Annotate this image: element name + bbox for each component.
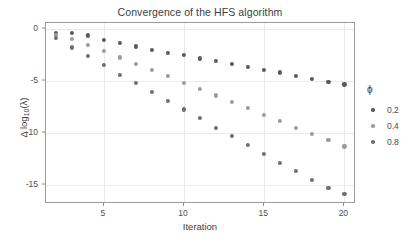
data-point xyxy=(262,112,266,116)
data-point xyxy=(86,43,90,47)
data-point xyxy=(150,68,154,72)
data-point xyxy=(102,63,106,67)
x-tick-label: 5 xyxy=(100,208,105,218)
data-point xyxy=(86,54,90,58)
legend-item[interactable]: 0.4 xyxy=(366,118,420,134)
legend: ϕ 0.20.40.8 xyxy=(366,84,420,150)
x-tick-mark xyxy=(343,203,344,206)
data-point xyxy=(310,77,314,81)
legend-label: 0.8 xyxy=(387,137,399,147)
data-point xyxy=(278,70,282,74)
data-point xyxy=(198,86,202,90)
y-axis-log: log xyxy=(18,116,29,129)
x-tick-label: 10 xyxy=(178,208,187,218)
y-tick-label: 0 xyxy=(0,23,38,33)
y-axis-arg: (λ) xyxy=(18,97,29,108)
chart-title: Convergence of the HFS algorithm xyxy=(45,6,355,18)
data-point xyxy=(118,72,122,76)
data-point xyxy=(70,31,74,35)
data-point xyxy=(294,125,298,129)
data-point xyxy=(246,106,250,110)
x-tick-mark xyxy=(103,203,104,206)
data-point xyxy=(198,56,202,60)
legend-items: 0.20.40.8 xyxy=(366,102,420,150)
grid-line-vertical xyxy=(184,23,185,202)
data-point xyxy=(262,152,266,156)
y-axis-delta: Δ xyxy=(18,132,29,138)
data-point xyxy=(134,81,138,85)
data-point xyxy=(166,51,170,55)
data-point xyxy=(134,61,138,65)
x-tick-label: 15 xyxy=(258,208,267,218)
data-point xyxy=(326,186,330,190)
data-point xyxy=(342,82,346,86)
grid-line-horizontal xyxy=(46,81,354,82)
data-point xyxy=(310,132,314,136)
legend-key-icon xyxy=(366,124,380,128)
data-point xyxy=(166,74,170,78)
data-point xyxy=(278,161,282,165)
y-tick-mark xyxy=(42,80,45,81)
data-point xyxy=(86,33,90,37)
data-point xyxy=(150,90,154,94)
data-point xyxy=(182,107,186,111)
data-point xyxy=(326,137,330,141)
grid-line-horizontal xyxy=(46,29,354,30)
data-point xyxy=(54,35,58,39)
x-tick-mark xyxy=(263,203,264,206)
legend-label: 0.4 xyxy=(387,121,399,131)
data-point xyxy=(102,38,106,42)
data-point xyxy=(326,80,330,84)
data-point xyxy=(182,53,186,57)
data-point xyxy=(166,98,170,102)
legend-dot-icon xyxy=(371,108,375,112)
y-axis-title: Δ log10(λ) xyxy=(18,48,29,188)
legend-item[interactable]: 0.2 xyxy=(366,102,420,118)
data-point xyxy=(70,37,74,41)
data-point xyxy=(342,192,346,196)
x-tick-label: 20 xyxy=(339,208,348,218)
x-axis-title: Iteration xyxy=(45,221,355,232)
grid-line-horizontal xyxy=(46,185,354,186)
data-point xyxy=(294,73,298,77)
legend-dot-icon xyxy=(371,140,375,144)
data-point xyxy=(118,55,122,59)
legend-item[interactable]: 0.8 xyxy=(366,134,420,150)
data-point xyxy=(214,93,218,97)
plot-panel xyxy=(45,22,355,203)
legend-key-icon xyxy=(366,108,380,112)
legend-dot-icon xyxy=(371,124,375,128)
y-tick-mark xyxy=(42,184,45,185)
x-tick-mark xyxy=(183,203,184,206)
data-point xyxy=(150,47,154,51)
data-point xyxy=(230,62,234,66)
data-point xyxy=(246,143,250,147)
data-point xyxy=(102,48,106,52)
data-point xyxy=(214,59,218,63)
data-point xyxy=(230,99,234,103)
data-point xyxy=(70,45,74,49)
data-point xyxy=(134,44,138,48)
grid-line-horizontal xyxy=(46,133,354,134)
data-point xyxy=(294,169,298,173)
data-point xyxy=(310,178,314,182)
data-point xyxy=(214,125,218,129)
y-axis-base: 10 xyxy=(23,109,30,117)
y-tick-mark xyxy=(42,28,45,29)
data-point xyxy=(182,81,186,85)
data-point xyxy=(118,41,122,45)
data-point xyxy=(278,119,282,123)
grid-line-vertical xyxy=(344,23,345,202)
data-point xyxy=(342,144,346,148)
data-point xyxy=(198,116,202,120)
data-point xyxy=(230,134,234,138)
y-tick-mark xyxy=(42,132,45,133)
chart-figure: Convergence of the HFS algorithm 0-5-10-… xyxy=(0,0,420,243)
data-point xyxy=(262,68,266,72)
legend-label: 0.2 xyxy=(387,105,399,115)
legend-key-icon xyxy=(366,140,380,144)
data-point xyxy=(246,65,250,69)
legend-title: ϕ xyxy=(366,84,420,95)
